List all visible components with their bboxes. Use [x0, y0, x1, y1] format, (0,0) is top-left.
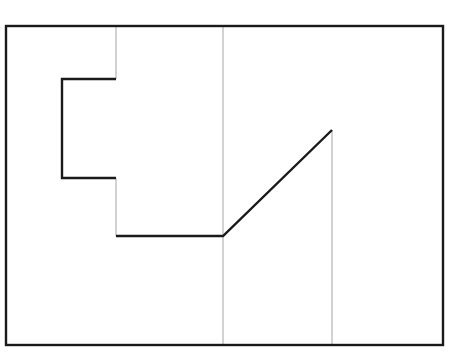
guide-lines	[116, 26, 332, 345]
step-path-upper	[62, 79, 116, 178]
outer-frame	[6, 26, 443, 345]
diagram-canvas	[0, 0, 450, 355]
step-path-lower-diagonal	[116, 130, 332, 236]
